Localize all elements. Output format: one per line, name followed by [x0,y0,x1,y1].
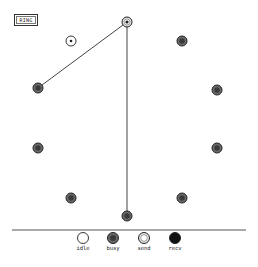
ring-node-5 [122,211,132,221]
message-token [66,36,76,46]
ring-node-3 [212,143,222,153]
ring-node-0 [122,17,132,27]
ring-node-7 [33,143,43,153]
ring-title-label: RING [14,14,38,26]
legend-swatch-idle [78,233,89,244]
legend-label-idle: idle [71,245,95,251]
legend-swatch-send [139,233,150,244]
ring-diagram [0,0,258,267]
legend-label-recv: recv [163,245,187,251]
legend-label-busy: busy [101,245,125,251]
ring-edge [38,22,127,88]
legend-swatch-busy [108,233,119,244]
ring-node-4 [177,193,187,203]
edges-layer [38,22,127,216]
ring-node-8 [33,83,43,93]
ring-node-2 [212,85,222,95]
legend-swatch-recv [170,233,181,244]
ring-node-6 [66,193,76,203]
legend-layer [78,233,181,244]
legend-label-send: send [132,245,156,251]
ring-node-1 [177,36,187,46]
